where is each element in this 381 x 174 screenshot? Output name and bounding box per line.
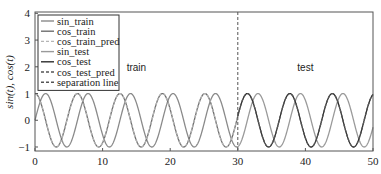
y-tick-label: −1 (18, 141, 30, 153)
x-tick-label: 0 (32, 155, 38, 167)
chart: 01020304050 −101234 sin(t), cos(t) train… (0, 0, 381, 174)
y-tick-label: 2 (25, 61, 31, 73)
legend: sin_traincos_traincos_train_predsin_test… (38, 15, 120, 90)
test-region-label: test (297, 62, 313, 73)
y-tick-label: 4 (25, 7, 31, 19)
y-tick-label: 1 (25, 88, 31, 100)
x-tick-label: 10 (97, 155, 109, 167)
x-tick-label: 50 (368, 155, 380, 167)
plot-curves (35, 94, 373, 147)
x-tick-label: 40 (300, 155, 312, 167)
legend-label: separation line (57, 77, 119, 88)
x-tick-label: 20 (165, 155, 177, 167)
train-region-label: train (127, 62, 146, 73)
y-tick-label: 3 (25, 34, 31, 46)
x-tick-label: 30 (232, 155, 244, 167)
y-tick-label: 0 (25, 114, 31, 126)
y-axis-label: sin(t), cos(t) (3, 55, 16, 109)
